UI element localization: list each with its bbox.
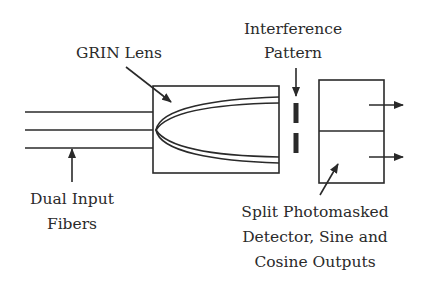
detector-label-line1: Split Photomasked <box>241 203 388 221</box>
fibers-label-line1: Dual Input <box>30 190 115 208</box>
fringe-dash-bottom <box>294 133 299 153</box>
grin-lens-label: GRIN Lens <box>76 44 162 62</box>
lens-ray-inner <box>156 103 279 157</box>
interference-pattern <box>294 103 299 153</box>
grin-lens <box>153 86 279 173</box>
interference-label-line2: Pattern <box>264 44 322 62</box>
fibers-label-line2: Fibers <box>47 215 97 233</box>
dual-input-fibers <box>25 112 153 148</box>
grin-interferometer-diagram: GRIN Lens Interference Pattern Dual Inpu… <box>0 0 421 290</box>
detector-label-line3: Cosine Outputs <box>254 253 375 271</box>
split-photomasked-detector <box>319 80 384 183</box>
interference-label-line1: Interference <box>244 20 342 38</box>
detector-label-line2: Detector, Sine and <box>242 228 388 246</box>
fringe-dash-top <box>294 103 299 123</box>
grin-lens-pointer-arrow-icon <box>126 67 171 102</box>
detector-pointer-arrow-icon <box>320 164 338 195</box>
grin-lens-body <box>153 86 279 173</box>
